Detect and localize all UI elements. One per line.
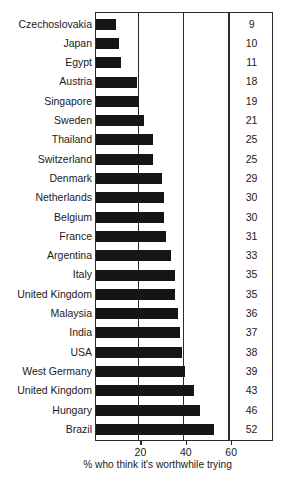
- category-label: France: [59, 228, 92, 245]
- value-label: 35: [230, 286, 274, 303]
- category-label: Italy: [73, 266, 92, 283]
- bar: [96, 115, 144, 126]
- bar: [96, 212, 164, 223]
- category-label: Switzerland: [38, 151, 92, 168]
- bar-rows: Czechoslovakia9Japan10Egypt11Austria18Si…: [96, 13, 272, 440]
- category-label: Czechoslovakia: [18, 16, 92, 33]
- x-axis: 204060: [95, 441, 273, 459]
- value-label: 9: [230, 16, 274, 33]
- bar-row: Brazil52: [96, 420, 272, 439]
- category-label: Austria: [59, 73, 92, 90]
- value-label: 39: [230, 363, 274, 380]
- category-label: Brazil: [66, 421, 92, 438]
- bar-row: West Germany39: [96, 362, 272, 381]
- value-label: 11: [230, 54, 274, 71]
- value-label: 35: [230, 266, 274, 283]
- bar-row: Switzerland25: [96, 150, 272, 169]
- value-label: 10: [230, 35, 274, 52]
- category-label: West Germany: [22, 363, 92, 380]
- category-label: India: [69, 324, 92, 341]
- bar-row: Belgium30: [96, 208, 272, 227]
- bar: [96, 308, 178, 319]
- bar: [96, 57, 121, 68]
- bar-row: Singapore19: [96, 92, 272, 111]
- bar: [96, 38, 119, 49]
- category-label: Hungary: [52, 402, 92, 419]
- x-tick-label: 60: [216, 445, 246, 459]
- bar: [96, 173, 162, 184]
- value-label: 37: [230, 324, 274, 341]
- bar-row: Argentina33: [96, 246, 272, 265]
- value-label: 43: [230, 382, 274, 399]
- category-label: Egypt: [65, 54, 92, 71]
- bar: [96, 405, 200, 416]
- bar: [96, 250, 171, 261]
- category-label: Argentina: [47, 247, 92, 264]
- bar-row: USA38: [96, 343, 272, 362]
- bar: [96, 270, 175, 281]
- category-label: Sweden: [54, 112, 92, 129]
- category-label: Thailand: [52, 131, 92, 148]
- value-label: 21: [230, 112, 274, 129]
- x-axis-title: % who think it's worthwhile trying: [0, 459, 285, 470]
- value-label: 33: [230, 247, 274, 264]
- category-label: United Kingdom: [17, 382, 92, 399]
- category-label: United Kingdom: [17, 286, 92, 303]
- value-label: 52: [230, 421, 274, 438]
- bar: [96, 134, 153, 145]
- bar: [96, 289, 175, 300]
- value-label: 46: [230, 402, 274, 419]
- x-tick-label: 40: [171, 445, 201, 459]
- value-label: 18: [230, 73, 274, 90]
- bar: [96, 96, 139, 107]
- bar: [96, 424, 214, 435]
- plot-frame: Czechoslovakia9Japan10Egypt11Austria18Si…: [95, 12, 273, 441]
- bar-row: Czechoslovakia9: [96, 15, 272, 34]
- bar: [96, 231, 166, 242]
- bar-row: Netherlands30: [96, 188, 272, 207]
- value-label: 36: [230, 305, 274, 322]
- category-label: Japan: [63, 35, 92, 52]
- bar-row: India37: [96, 323, 272, 342]
- bar: [96, 77, 137, 88]
- value-label: 29: [230, 170, 274, 187]
- bar: [96, 347, 182, 358]
- value-label: 25: [230, 131, 274, 148]
- value-label: 30: [230, 209, 274, 226]
- bar-row: Thailand25: [96, 130, 272, 149]
- bar: [96, 154, 153, 165]
- bar-row: United Kingdom43: [96, 381, 272, 400]
- bar-chart: Czechoslovakia9Japan10Egypt11Austria18Si…: [0, 0, 285, 483]
- category-label: Malaysia: [51, 305, 92, 322]
- bar-row: Sweden21: [96, 111, 272, 130]
- bar-row: Egypt11: [96, 53, 272, 72]
- value-label: 25: [230, 151, 274, 168]
- bar: [96, 19, 116, 30]
- value-label: 30: [230, 189, 274, 206]
- bar: [96, 366, 185, 377]
- bar-row: Malaysia36: [96, 304, 272, 323]
- bar-row: Japan10: [96, 34, 272, 53]
- bar-row: Hungary46: [96, 401, 272, 420]
- category-label: Denmark: [49, 170, 92, 187]
- bar-row: Denmark29: [96, 169, 272, 188]
- bar: [96, 192, 164, 203]
- bar-row: France31: [96, 227, 272, 246]
- bar: [96, 327, 180, 338]
- bar-row: Italy35: [96, 265, 272, 284]
- value-label: 38: [230, 344, 274, 361]
- bar-row: United Kingdom35: [96, 285, 272, 304]
- bar-row: Austria18: [96, 72, 272, 91]
- category-label: Belgium: [54, 209, 92, 226]
- value-label: 31: [230, 228, 274, 245]
- category-label: Netherlands: [35, 189, 92, 206]
- x-tick-label: 20: [125, 445, 155, 459]
- value-label: 19: [230, 93, 274, 110]
- category-label: USA: [70, 344, 92, 361]
- bar: [96, 385, 194, 396]
- category-label: Singapore: [44, 93, 92, 110]
